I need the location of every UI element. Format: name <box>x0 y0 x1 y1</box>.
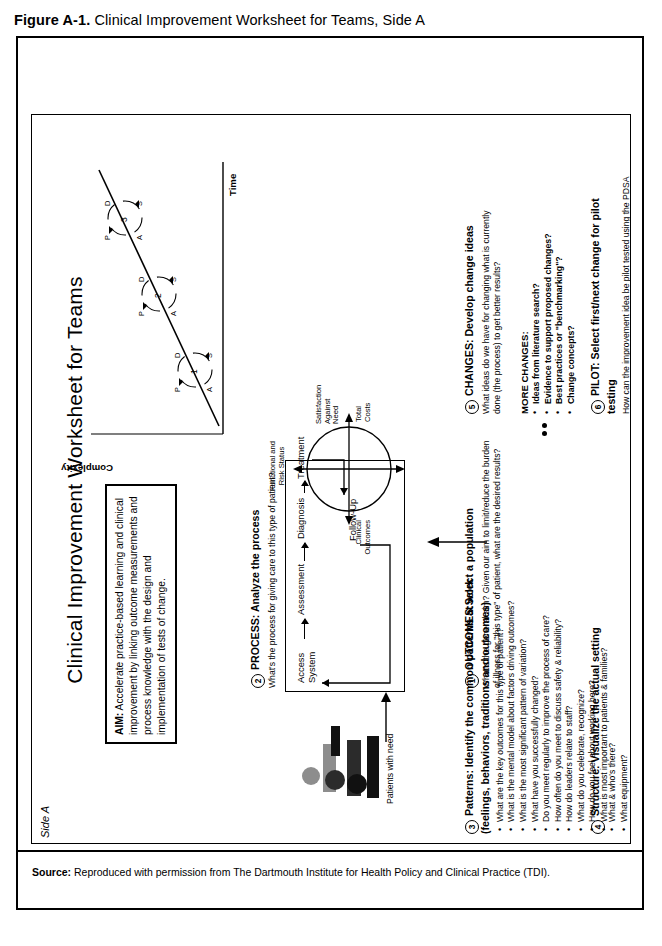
section-pilot-number: 6 <box>591 400 605 414</box>
section-changes-heading: 5CHANGES: Develop change ideas <box>463 204 479 414</box>
aim-label: AIM: <box>114 713 125 735</box>
section-pilot-heading: 6PILOT: Select first/next change for pil… <box>589 164 619 414</box>
figure-caption-text: Clinical Improvement Worksheet for Teams… <box>90 12 425 28</box>
section-structure-bullets: What & who's there? What equipment? What… <box>607 574 631 834</box>
more-changes-bullets: Ideas from literature search? Evidence t… <box>531 144 577 414</box>
more-changes-label: MORE CHANGES: <box>519 331 530 414</box>
section-structure-number: 4 <box>591 820 605 834</box>
patients-with-need-label: Patients with need <box>385 734 395 804</box>
list-item: Best practices or "benchmarking"? <box>554 144 566 414</box>
compass-label-clinical-outcomes: ClinicalOutcomes <box>355 520 372 558</box>
list-item: How do leaders relate to staff? <box>564 534 576 822</box>
list-item: What do you celebrate, recognize? <box>576 534 588 822</box>
list-item: Do you meet regularly to improve the pro… <box>541 534 553 822</box>
ramp-cycle-1-a: A <box>205 387 214 392</box>
section-process-title: PROCESS: Analyze the process <box>249 510 261 670</box>
ramp-cycle-2-label: 2 <box>153 293 163 298</box>
ramp-cycle-2-a: A <box>169 311 178 316</box>
section-structure-heading: 4Structure: Visualize the actual setting <box>589 574 605 834</box>
figure-page-frame: Side A Clinical Improvement Worksheet fo… <box>16 36 644 910</box>
section-patterns-number: 3 <box>465 820 479 834</box>
pdsa-ramp-diagram: Complexity Time 1 2 3 P D S A P D S A P … <box>83 148 233 448</box>
aim-box: AIM: Accelerate practice-based learning … <box>105 484 177 744</box>
ramp-cycle-3-d: D <box>103 201 112 206</box>
ramp-cycle-3-s: S <box>135 201 144 206</box>
ramp-cycle-2-p: P <box>137 311 146 316</box>
patients-icon <box>295 706 381 798</box>
ramp-cycle-2-s: S <box>169 277 178 282</box>
ramp-y-axis-label: Complexity <box>61 463 113 474</box>
list-item: What equipment? <box>619 574 631 822</box>
list-item: What is the most significant pattern of … <box>518 534 530 822</box>
side-label: Side A <box>39 806 51 838</box>
list-item: What are the key outcomes for this type … <box>495 534 507 822</box>
ramp-x-axis-label: Time <box>227 174 238 196</box>
list-item: What have you successfully changed? <box>530 534 542 822</box>
ramp-cycle-1-p: P <box>173 387 182 392</box>
aim-text: Accelerate practice-based learning and c… <box>114 496 167 735</box>
compass-label-satisfaction-against-need: SatisfactionAgainstNeed <box>315 384 341 424</box>
section-patterns-heading: 3Patterns: Identify the common patterns … <box>463 534 493 834</box>
dot-marker <box>542 431 547 436</box>
clinical-value-compass: Functional andRisk Status SatisfactionAg… <box>269 394 419 544</box>
ramp-cycle-3-label: 3 <box>119 217 129 222</box>
ramp-cycle-1-d: D <box>173 353 182 358</box>
section-process-number: 2 <box>251 674 265 688</box>
section-structure: 4Structure: Visualize the actual setting… <box>589 574 631 834</box>
section-pilot-sub: How can the improvement idea be pilot te… <box>621 164 631 414</box>
dot-marker <box>542 423 547 428</box>
section-pilot-title: PILOT: Select first/next change for pilo… <box>589 198 617 414</box>
ramp-cycle-1-label: 1 <box>189 369 199 374</box>
section-changes-number: 5 <box>465 400 479 414</box>
figure-source-footer: Source: Reproduced with permission from … <box>18 850 642 908</box>
ramp-cycle-3-p: P <box>103 235 112 240</box>
ramp-cycle-1-s: S <box>205 353 214 358</box>
ramp-cycle-2-d: D <box>137 277 146 282</box>
section-pilot: 6PILOT: Select first/next change for pil… <box>589 164 631 414</box>
section-patterns-title: Patterns: Identify the common patterns a… <box>463 579 491 834</box>
list-item: What is the flow of the patient, of info… <box>630 574 631 822</box>
compass-label-functional-risk-status: Functional andRisk Status <box>269 430 286 502</box>
changes-dot-markers <box>533 420 551 436</box>
source-label: Source: <box>32 866 71 878</box>
list-item: Change concepts? <box>566 144 578 414</box>
section-changes-sub: What ideas do we have for changing what … <box>481 204 503 414</box>
patients-to-flow-arrow <box>373 684 399 744</box>
source-text: Reproduced with permission from The Dart… <box>71 866 550 878</box>
worksheet-rotated-canvas: Side A Clinical Improvement Worksheet fo… <box>33 116 631 844</box>
section-more-changes: MORE CHANGES: Ideas from literature sear… <box>519 144 577 414</box>
figure-caption: Figure A-1. Clinical Improvement Workshe… <box>14 12 614 29</box>
section-changes: 5CHANGES: Develop change ideas What idea… <box>463 204 503 414</box>
list-item: Ideas from literature search? <box>531 144 543 414</box>
section-changes-title: CHANGES: Develop change ideas <box>463 225 475 396</box>
section-process-heading: 2PROCESS: Analyze the process <box>249 458 265 688</box>
list-item: What & who's there? <box>607 574 619 822</box>
worksheet-container: Side A Clinical Improvement Worksheet fo… <box>31 114 631 844</box>
list-item: How often do you meet to discuss safety … <box>553 534 565 822</box>
section-structure-title: Structure: Visualize the actual setting <box>589 627 601 816</box>
figure-label: Figure A-1. <box>14 12 90 28</box>
list-item: What is the mental model about factors d… <box>506 534 518 822</box>
ramp-cycle-3-a: A <box>135 235 144 240</box>
list-item: Evidence to support proposed changes? <box>543 144 555 414</box>
compass-label-total-costs: TotalCosts <box>355 388 372 422</box>
